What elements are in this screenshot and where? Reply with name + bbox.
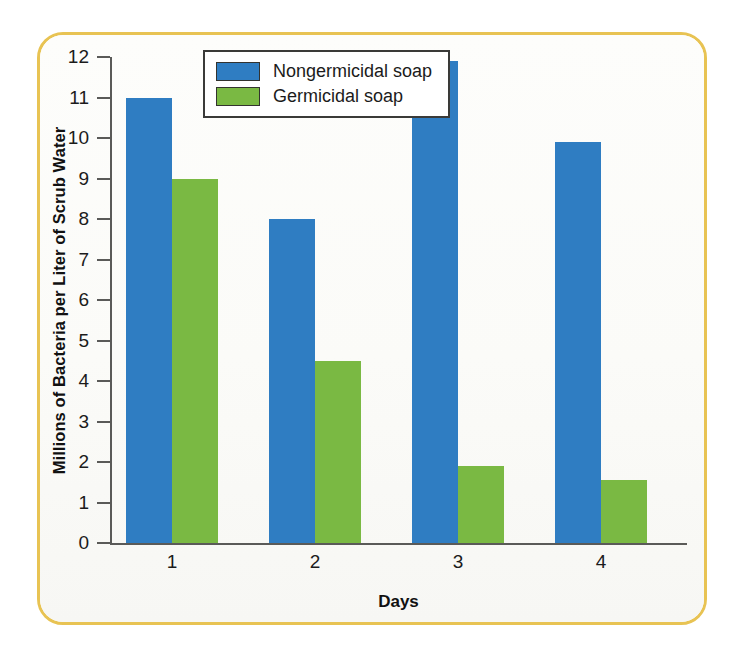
legend-label-germicidal: Germicidal soap bbox=[273, 86, 403, 107]
y-axis-tick: 1 bbox=[97, 502, 110, 504]
x-axis-title: Days bbox=[110, 592, 687, 612]
y-axis-tick: 2 bbox=[97, 461, 110, 463]
y-axis-tick: 5 bbox=[97, 340, 110, 342]
y-axis-tick: 8 bbox=[97, 218, 110, 220]
x-axis-tick-label: 3 bbox=[428, 551, 488, 573]
plot-area: 0123456789101112 1234 bbox=[110, 57, 687, 543]
y-axis-tick-label: 9 bbox=[78, 168, 89, 190]
y-axis-tick-label: 4 bbox=[78, 370, 89, 392]
y-axis-tick-label: 10 bbox=[68, 127, 89, 149]
y-axis-line bbox=[110, 57, 112, 543]
y-axis-tick: 10 bbox=[97, 137, 110, 139]
y-axis-tick: 4 bbox=[97, 380, 110, 382]
y-axis-tick: 6 bbox=[97, 299, 110, 301]
y-axis-tick: 12 bbox=[97, 56, 110, 58]
bar-germicidal-day-4 bbox=[601, 480, 647, 543]
y-axis-tick: 7 bbox=[97, 259, 110, 261]
y-axis-title-text: Millions of Bacteria per Liter of Scrub … bbox=[51, 126, 70, 474]
y-axis-tick-label: 0 bbox=[78, 532, 89, 554]
y-axis-tick: 11 bbox=[97, 97, 110, 99]
y-axis-tick-label: 8 bbox=[78, 208, 89, 230]
y-axis-tick-label: 5 bbox=[78, 330, 89, 352]
legend-item: Germicidal soap bbox=[216, 84, 432, 109]
y-axis-tick: 0 bbox=[97, 542, 110, 544]
x-axis-tick-label: 4 bbox=[571, 551, 631, 573]
legend-item: Nongermicidal soap bbox=[216, 59, 432, 84]
bar-germicidal-day-2 bbox=[315, 361, 361, 543]
y-axis-tick-label: 7 bbox=[78, 249, 89, 271]
y-axis-tick: 3 bbox=[97, 421, 110, 423]
legend-label-nongermicidal: Nongermicidal soap bbox=[273, 61, 432, 82]
y-axis-tick-label: 11 bbox=[69, 87, 89, 109]
bar-nongermicidal-day-3 bbox=[412, 61, 458, 543]
y-axis-tick-label: 12 bbox=[68, 46, 89, 68]
chart-legend: Nongermicidal soap Germicidal soap bbox=[203, 50, 450, 118]
y-axis-tick-label: 6 bbox=[78, 289, 89, 311]
bar-nongermicidal-day-4 bbox=[555, 142, 601, 543]
bar-nongermicidal-day-1 bbox=[126, 98, 172, 544]
x-axis-tick-label: 2 bbox=[285, 551, 345, 573]
x-axis-line bbox=[110, 543, 687, 545]
y-axis-tick-label: 1 bbox=[78, 492, 89, 514]
bar-nongermicidal-day-2 bbox=[269, 219, 315, 543]
y-axis-tick: 9 bbox=[97, 178, 110, 180]
y-axis-tick-label: 2 bbox=[78, 451, 89, 473]
y-axis-tick-label: 3 bbox=[78, 411, 89, 433]
legend-swatch-germicidal bbox=[216, 87, 260, 106]
legend-swatch-nongermicidal bbox=[216, 62, 260, 81]
bar-germicidal-day-3 bbox=[458, 466, 504, 543]
x-axis-tick-label: 1 bbox=[142, 551, 202, 573]
bar-germicidal-day-1 bbox=[172, 179, 218, 544]
